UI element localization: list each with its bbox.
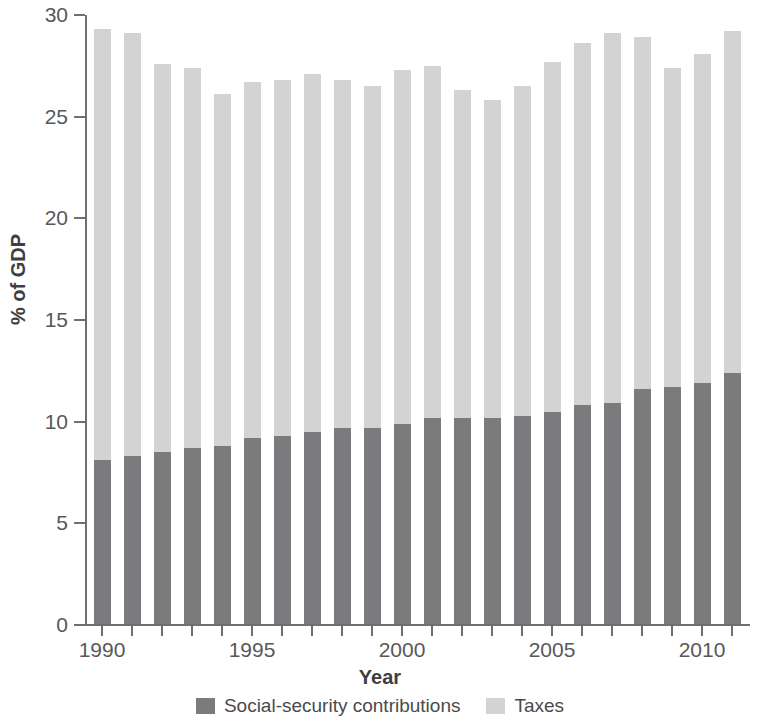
bar-segment-social-security bbox=[604, 403, 621, 625]
x-axis-title: Year bbox=[0, 666, 760, 689]
x-axis-tick-label: 1995 bbox=[212, 639, 292, 660]
bar-2008 bbox=[634, 37, 651, 625]
bar-segment-taxes bbox=[274, 80, 291, 436]
legend-label: Taxes bbox=[514, 696, 564, 715]
bar-2010 bbox=[694, 54, 711, 625]
bar-segment-taxes bbox=[304, 74, 321, 432]
x-axis-tick-mark bbox=[101, 626, 103, 636]
y-axis-tick-mark bbox=[74, 14, 85, 16]
bar-2004 bbox=[514, 86, 531, 625]
bar-segment-taxes bbox=[94, 29, 111, 460]
bar-1990 bbox=[94, 29, 111, 625]
chart-legend: Social-security contributionsTaxes bbox=[0, 696, 760, 715]
bar-segment-taxes bbox=[604, 33, 621, 403]
legend-label: Social-security contributions bbox=[224, 696, 461, 715]
plot-area bbox=[87, 15, 747, 625]
bar-1998 bbox=[334, 80, 351, 625]
bar-segment-social-security bbox=[454, 418, 471, 625]
bar-segment-social-security bbox=[634, 389, 651, 625]
bar-segment-social-security bbox=[364, 428, 381, 625]
bar-segment-taxes bbox=[664, 68, 681, 387]
bar-segment-social-security bbox=[514, 416, 531, 625]
bar-1991 bbox=[124, 33, 141, 625]
x-axis-tick-mark bbox=[551, 626, 553, 636]
x-axis-tick-mark bbox=[431, 626, 433, 636]
bar-segment-social-security bbox=[154, 452, 171, 625]
bar-segment-taxes bbox=[124, 33, 141, 456]
bar-segment-taxes bbox=[184, 68, 201, 448]
legend-swatch-icon bbox=[486, 698, 505, 714]
bar-segment-social-security bbox=[214, 446, 231, 625]
bar-2002 bbox=[454, 90, 471, 625]
legend-item: Social-security contributions bbox=[196, 696, 461, 715]
bar-2006 bbox=[574, 43, 591, 625]
y-axis-tick-label: 25 bbox=[8, 106, 68, 127]
bar-segment-taxes bbox=[364, 86, 381, 428]
y-axis-tick-label: 20 bbox=[8, 207, 68, 228]
x-axis-line bbox=[85, 624, 750, 626]
y-axis-ticks: 302520151050 bbox=[0, 0, 68, 660]
bar-segment-taxes bbox=[634, 37, 651, 389]
x-axis-tick-mark bbox=[341, 626, 343, 636]
bar-2000 bbox=[394, 70, 411, 625]
bar-segment-social-security bbox=[574, 405, 591, 625]
x-axis-tick-mark bbox=[401, 626, 403, 636]
bar-2009 bbox=[664, 68, 681, 625]
bar-segment-social-security bbox=[544, 412, 561, 626]
bar-segment-social-security bbox=[484, 418, 501, 625]
x-axis-tick-mark bbox=[281, 626, 283, 636]
x-axis-tick-mark bbox=[311, 626, 313, 636]
bar-segment-taxes bbox=[154, 64, 171, 452]
bar-segment-social-security bbox=[724, 373, 741, 625]
y-axis-tick-mark bbox=[74, 522, 85, 524]
bar-segment-social-security bbox=[334, 428, 351, 625]
bar-segment-social-security bbox=[184, 448, 201, 625]
bar-segment-taxes bbox=[514, 86, 531, 415]
x-axis-tick-mark bbox=[371, 626, 373, 636]
x-axis-tick-mark bbox=[251, 626, 253, 636]
bar-segment-social-security bbox=[274, 436, 291, 625]
bar-segment-social-security bbox=[694, 383, 711, 625]
bar-segment-taxes bbox=[724, 31, 741, 373]
x-axis-tick-label: 2005 bbox=[512, 639, 592, 660]
y-axis-tick-mark bbox=[74, 116, 85, 118]
x-axis-tick-mark bbox=[491, 626, 493, 636]
bar-segment-taxes bbox=[484, 100, 501, 417]
x-axis-tick-label: 1990 bbox=[62, 639, 142, 660]
y-axis-tick-label: 30 bbox=[8, 4, 68, 25]
x-axis-tick-mark bbox=[161, 626, 163, 636]
bar-segment-taxes bbox=[454, 90, 471, 417]
y-axis-tick-mark bbox=[74, 421, 85, 423]
bar-segment-taxes bbox=[424, 66, 441, 418]
y-axis-tick-label: 0 bbox=[8, 614, 68, 635]
x-axis-tick-mark bbox=[671, 626, 673, 636]
bar-segment-social-security bbox=[424, 418, 441, 625]
bar-segment-taxes bbox=[694, 54, 711, 383]
x-axis-tick-mark bbox=[461, 626, 463, 636]
legend-swatch-icon bbox=[196, 698, 215, 714]
x-axis-tick-label: 2010 bbox=[662, 639, 742, 660]
bar-segment-social-security bbox=[664, 387, 681, 625]
bar-segment-taxes bbox=[394, 70, 411, 424]
x-axis-tick-mark bbox=[581, 626, 583, 636]
x-axis-tick-mark bbox=[611, 626, 613, 636]
bar-segment-social-security bbox=[304, 432, 321, 625]
y-axis-tick-mark bbox=[74, 319, 85, 321]
y-axis-tick-mark bbox=[74, 624, 85, 626]
y-axis-tick-label: 10 bbox=[8, 411, 68, 432]
x-axis-tick-mark bbox=[731, 626, 733, 636]
y-axis-tick-label: 5 bbox=[8, 512, 68, 533]
bar-2007 bbox=[604, 33, 621, 625]
y-axis-tick-mark bbox=[74, 217, 85, 219]
bar-segment-social-security bbox=[244, 438, 261, 625]
x-axis-tick-mark bbox=[701, 626, 703, 636]
legend-item: Taxes bbox=[486, 696, 564, 715]
y-axis-tick-label: 15 bbox=[8, 309, 68, 330]
x-axis-tick-label: 2000 bbox=[362, 639, 442, 660]
bar-2001 bbox=[424, 66, 441, 625]
bar-2005 bbox=[544, 62, 561, 625]
bar-2011 bbox=[724, 31, 741, 625]
x-axis-tick-mark bbox=[131, 626, 133, 636]
bar-segment-taxes bbox=[544, 62, 561, 412]
bar-1999 bbox=[364, 86, 381, 625]
